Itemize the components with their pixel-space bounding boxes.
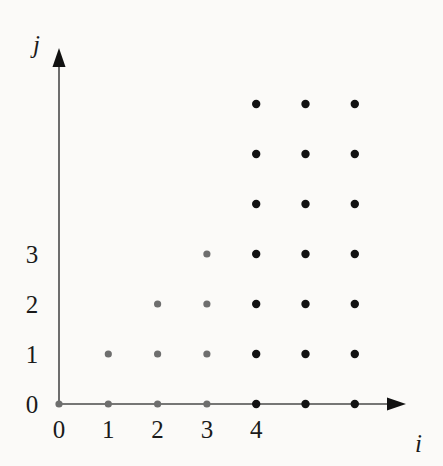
x-axis-arrowhead [387, 398, 406, 411]
y-tick-label: 2 [26, 292, 39, 317]
data-point [252, 300, 260, 308]
data-point [301, 100, 309, 108]
x-tick-label: 1 [102, 417, 115, 442]
y-axis-arrowhead [53, 48, 66, 67]
data-point [154, 300, 161, 307]
x-axis-label-i: i [415, 431, 422, 456]
data-point [154, 350, 161, 357]
y-tick-label: 1 [26, 342, 39, 367]
data-point [351, 250, 359, 258]
data-point [252, 100, 260, 108]
data-point [351, 150, 359, 158]
data-point [351, 350, 359, 358]
data-point [351, 100, 359, 108]
y-axis-label-j: j [33, 32, 40, 57]
data-point [301, 350, 309, 358]
data-point [55, 400, 62, 407]
data-point [301, 250, 309, 258]
x-tick-label: 2 [151, 417, 164, 442]
data-point [301, 200, 309, 208]
data-point [301, 300, 309, 308]
data-point [105, 400, 112, 407]
x-tick-label: 4 [250, 417, 263, 442]
data-point [252, 350, 260, 358]
data-point [252, 400, 260, 408]
x-tick-label: 3 [201, 417, 214, 442]
y-tick-label: 3 [26, 242, 39, 267]
data-point [301, 150, 309, 158]
data-point [105, 350, 112, 357]
data-point [252, 200, 260, 208]
data-point [252, 150, 260, 158]
data-point [203, 350, 210, 357]
data-point [351, 200, 359, 208]
data-point [351, 400, 359, 408]
x-tick-label: 0 [53, 417, 66, 442]
data-point [203, 250, 210, 257]
data-point [351, 300, 359, 308]
data-point [252, 250, 260, 258]
data-point [154, 400, 161, 407]
plot-canvas [0, 0, 443, 466]
y-tick-label: 0 [26, 392, 39, 417]
data-point [203, 300, 210, 307]
data-point [301, 400, 309, 408]
dot-layer [55, 100, 359, 408]
lattice-point-figure: i j 01234 0123 [0, 0, 443, 466]
data-point [203, 400, 210, 407]
